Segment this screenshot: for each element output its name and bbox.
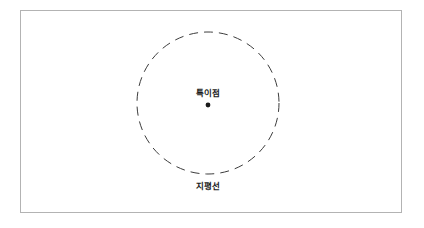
diagram-root: 특이점 지평선 [0,0,424,228]
singularity-label: 특이점 [196,89,221,98]
singularity-dot [206,103,211,108]
horizon-label: 지평선 [196,182,221,191]
figure-svg [0,0,424,228]
